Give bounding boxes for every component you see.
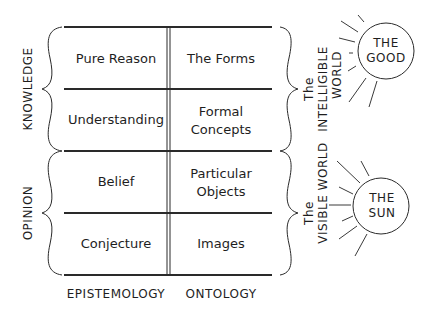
brace-visible: [280, 151, 298, 275]
brace-knowledge: [42, 27, 62, 151]
cell-particular: Particular: [190, 166, 252, 181]
sun-good-line-1: THE: [372, 36, 398, 50]
brace-intelligible: [280, 27, 298, 151]
sun-good-line-2: GOOD: [366, 51, 405, 65]
brace-opinion: [42, 151, 62, 275]
sun-sun-line-1: THE: [368, 191, 394, 205]
cell-belief: Belief: [98, 174, 135, 189]
divided-line-diagram: Pure Reason Understanding Belief Conject…: [0, 0, 435, 316]
label-intelligible: INTELLIGIBLE: [316, 46, 330, 132]
cell-understanding: Understanding: [68, 112, 164, 127]
cell-formal: Formal: [199, 104, 243, 119]
sun-sun-line-2: SUN: [369, 206, 396, 220]
cell-images: Images: [197, 236, 245, 251]
cell-conjecture: Conjecture: [81, 236, 151, 251]
cell-concepts: Concepts: [191, 122, 252, 137]
label-knowledge: KNOWLEDGE: [21, 47, 35, 130]
label-visible-world: VISIBLE WORLD: [316, 142, 330, 243]
cell-objects: Objects: [196, 184, 245, 199]
label-the-intelligible: The: [302, 77, 316, 102]
label-opinion: OPINION: [21, 186, 35, 241]
label-world: WORLD: [330, 51, 344, 99]
cell-pure-reason: Pure Reason: [76, 51, 156, 66]
label-the-visible: The: [302, 201, 316, 226]
cell-the-forms: The Forms: [186, 51, 255, 66]
column-label-ontology: ONTOLOGY: [186, 287, 257, 301]
column-label-epistemology: EPISTEMOLOGY: [67, 287, 166, 301]
